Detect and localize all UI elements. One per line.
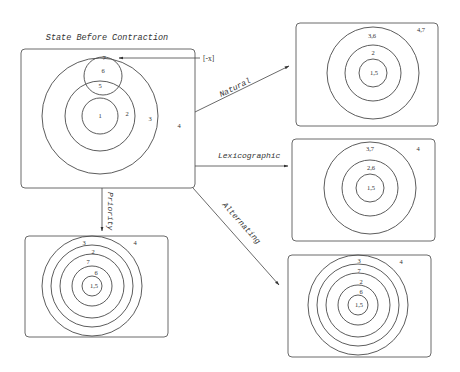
outside-label: 4 bbox=[133, 239, 137, 246]
ring-label: 7 bbox=[86, 258, 90, 265]
ring-label: 3,7 bbox=[366, 145, 375, 152]
edge-priority-label: Priority bbox=[106, 192, 115, 231]
panel-before-frame bbox=[21, 49, 195, 188]
contraction-diagram: State Before Contraction 1 2 3 4 7 6 5 [… bbox=[0, 0, 460, 372]
ring-label: 2 bbox=[359, 278, 362, 285]
ring-label: 1,5 bbox=[370, 69, 378, 76]
ring-label: 1 bbox=[98, 112, 101, 119]
ring-label: 2,6 bbox=[367, 164, 376, 171]
outside-label: 4 bbox=[177, 122, 181, 129]
panel-before: 1 2 3 4 7 6 5 bbox=[21, 49, 195, 188]
ring-label: 2 bbox=[91, 248, 94, 255]
ring-label: 2 bbox=[371, 49, 374, 56]
outside-label: 4 bbox=[416, 145, 420, 152]
outside-label: 4,7 bbox=[417, 26, 426, 33]
small-circle-label: 6 bbox=[101, 67, 105, 74]
edge-natural-arrow bbox=[195, 66, 289, 112]
ring-label: 6 bbox=[94, 269, 98, 276]
negation-label: [-x] bbox=[203, 54, 214, 63]
small-circle-label: 5 bbox=[98, 82, 101, 89]
panel-natural: 1,5 2 3,6 4,7 bbox=[296, 23, 438, 126]
ring-label: 1,5 bbox=[355, 301, 363, 308]
ring-label: 3 bbox=[357, 257, 360, 264]
small-circle-x bbox=[84, 57, 122, 95]
ring-label: 1,5 bbox=[367, 184, 375, 191]
panel-lexicographic: 1,5 2,6 3,7 4 bbox=[292, 139, 435, 241]
edge-alternating-arrow bbox=[193, 188, 279, 285]
edge-natural-label: Natural bbox=[218, 76, 252, 99]
ring-label: 3 bbox=[82, 239, 85, 246]
diagram-title: State Before Contraction bbox=[46, 33, 168, 43]
ring-label: 2 bbox=[125, 110, 128, 117]
ring-label: 3 bbox=[148, 115, 151, 122]
panel-alternating: 1,5 6 2 7 3 4 bbox=[288, 255, 431, 357]
panel-priority: 1,5 6 7 2 3 4 bbox=[25, 236, 168, 337]
ring-label: 6 bbox=[359, 288, 363, 295]
edge-lexicographic-label: Lexicographic bbox=[218, 151, 281, 160]
edge-alternating-label: Alternating bbox=[220, 200, 263, 246]
ring-label: 3,6 bbox=[368, 32, 377, 39]
ring-label: 1,5 bbox=[90, 282, 98, 289]
outside-label: 4 bbox=[399, 258, 403, 265]
panel-lexicographic-frame bbox=[292, 139, 435, 241]
